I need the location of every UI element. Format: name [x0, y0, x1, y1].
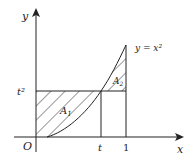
y-axis-label: y [21, 10, 29, 23]
origin-label: O [23, 140, 32, 153]
area-diagram: y x O t 1 t² y = x² A1 A2 [0, 0, 194, 164]
tick-label-t: t [98, 142, 103, 153]
tick-label-1: 1 [123, 142, 129, 153]
tick-label-t-squared: t² [17, 86, 25, 97]
x-axis-label: x [177, 143, 184, 156]
curve-label: y = x² [134, 43, 162, 53]
